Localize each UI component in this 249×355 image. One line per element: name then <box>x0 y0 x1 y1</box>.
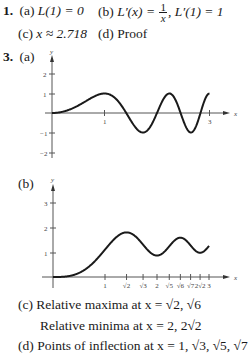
part-c-label: (c) <box>18 297 33 312</box>
svg-text:x: x <box>233 274 238 282</box>
relative-maxima: Relative maxima at x = √2, √6 <box>36 297 201 312</box>
x-ticks: 1√2√32√5√6√72√23 <box>103 274 211 290</box>
x-axis-arrow-icon <box>223 111 230 115</box>
svg-text:−1: −1 <box>40 130 48 138</box>
svg-text:√6: √6 <box>177 282 185 290</box>
svg-text:y: y <box>49 48 54 56</box>
y-axis-arrow-icon <box>51 184 55 191</box>
svg-text:x: x <box>233 110 238 118</box>
svg-text:3: 3 <box>44 200 48 208</box>
svg-text:√3: √3 <box>139 282 147 290</box>
svg-text:√7: √7 <box>187 282 195 290</box>
part-d-answer: (d) Points of inflection at x = 1, √3, √… <box>18 339 248 353</box>
svg-text:3: 3 <box>208 118 212 126</box>
svg-text:1: 1 <box>44 250 48 258</box>
svg-text:1: 1 <box>103 282 107 290</box>
svg-text:−2: −2 <box>40 150 48 158</box>
part-d-label: (d) <box>18 338 34 353</box>
x-axis-arrow-icon <box>223 275 230 279</box>
inflection-points: Points of inflection at x = 1, √3, √5, √… <box>37 338 248 353</box>
svg-text:√5: √5 <box>166 282 174 290</box>
svg-text:3: 3 <box>207 282 211 290</box>
svg-text:√2: √2 <box>123 282 131 290</box>
svg-text:2: 2 <box>44 225 48 233</box>
svg-text:2√2: 2√2 <box>195 282 206 290</box>
svg-text:y: y <box>50 176 55 184</box>
graph-b: y x 3 2 1 1√2√32√5√6√72√23 <box>42 176 238 290</box>
svg-text:2: 2 <box>43 71 47 79</box>
graph-a: y x 2 1 −1 −2 1 3 <box>40 48 238 158</box>
relative-minima: Relative minima at x = 2, 2√2 <box>40 319 202 333</box>
y-axis-arrow-icon <box>50 55 54 62</box>
svg-text:1: 1 <box>103 118 107 126</box>
curve-b <box>53 232 209 277</box>
svg-text:2: 2 <box>155 282 159 290</box>
part-c-answer: (c) Relative maxima at x = √2, √6 <box>18 298 201 312</box>
svg-text:1: 1 <box>43 91 47 99</box>
